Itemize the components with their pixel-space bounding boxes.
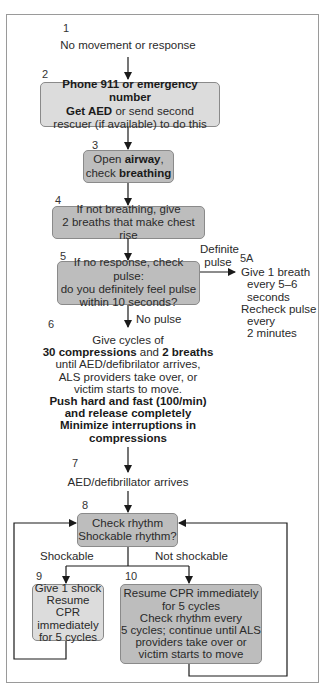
step-6-line5: victim starts to move. — [28, 383, 228, 395]
step-10-number: 10 — [125, 570, 137, 582]
step-3-check: check — [86, 167, 119, 179]
step-5-box: If no response, check pulse: do you defi… — [57, 261, 200, 305]
step-5a-text: Give 1 breath every 5–6 seconds Recheck … — [241, 266, 321, 340]
step-3-comma: , — [160, 153, 163, 165]
step-2-box: Phone 911 or emergency number Get AED or… — [40, 82, 220, 127]
step-5a-line4: Recheck pulse — [241, 303, 321, 315]
step-8-number: 8 — [82, 499, 88, 511]
step-3-breathing: breathing — [119, 167, 171, 179]
step-5-line3: within 10 seconds? — [80, 296, 178, 309]
step-1-text: No movement or response — [40, 39, 216, 52]
step-1-number: 1 — [63, 22, 69, 34]
step-4-line1: If not breathing, give — [76, 203, 180, 216]
step-10-line6: victim starts to move — [139, 648, 244, 660]
step-3-box: Open airway, check breathing — [83, 150, 174, 183]
not-shockable-label: Not shockable — [155, 550, 228, 563]
step-9-line4: for 5 cycles — [39, 631, 97, 643]
step-6-compressions: 30 compressions — [43, 346, 137, 358]
step-9-line1: Give 1 shock — [35, 582, 101, 594]
step-6-breaths: 2 breaths — [162, 346, 213, 358]
step-8-line1: Check rhythm — [92, 517, 163, 530]
step-7-text: AED/defibrillator arrives — [40, 476, 216, 489]
step-6-number: 6 — [48, 318, 54, 330]
step-5-line1: If no response, check pulse: — [58, 256, 199, 283]
step-2-line2-rest: or send second — [112, 105, 194, 117]
step-6-line9: compressions — [89, 432, 167, 444]
step-5a-line1: Give 1 breath — [241, 266, 321, 278]
step-4-line2: 2 breaths that make chest rise — [53, 216, 204, 243]
step-3-airway: airway — [125, 153, 161, 165]
step-8-box: Check rhythm Shockable rhythm? — [77, 513, 178, 547]
step-9-line2: Resume CPR — [33, 594, 103, 618]
step-5a-line6: 2 minutes — [241, 327, 321, 339]
step-6-and: and — [137, 346, 163, 358]
step-6-line1: Give cycles of — [28, 334, 228, 346]
step-2-line3: rescuer (if available) to do this — [53, 118, 206, 131]
step-2-line1: Phone 911 or emergency number — [62, 78, 198, 103]
step-6-line6: Push hard and fast (100/min) — [49, 395, 206, 407]
step-7-number: 7 — [72, 457, 78, 469]
step-6-text: Give cycles of 30 compressions and 2 bre… — [28, 334, 228, 444]
pulse-label: pulse — [200, 256, 236, 269]
step-6-line3: until AED/defibrilator arrives, — [28, 358, 228, 370]
step-4-box: If not breathing, give 2 breaths that ma… — [52, 206, 205, 239]
shockable-label: Shockable — [40, 550, 94, 563]
step-10-line1: Resume CPR immediately — [124, 587, 259, 599]
step-4-number: 4 — [55, 194, 61, 206]
no-pulse-label: No pulse — [136, 313, 181, 326]
step-9-number: 9 — [36, 570, 42, 582]
step-10-box: Resume CPR immediately for 5 cycles Chec… — [120, 584, 262, 664]
step-6-line4: ALS providers take over, or — [28, 371, 228, 383]
step-5a-line5: every — [241, 315, 321, 327]
step-9-line3: immediately — [37, 619, 98, 631]
definite-label: Definite — [200, 243, 236, 256]
step-2-get-aed: Get AED — [66, 105, 112, 117]
step-5-line2: do you definitely feel pulse — [61, 283, 197, 296]
step-5a-line2: every 5–6 — [241, 278, 321, 290]
step-5a-line3: seconds — [241, 291, 321, 303]
step-6-line8: Minimize interruptions in — [60, 419, 196, 431]
step-10-line4: 5 cycles; continue until ALS — [121, 624, 261, 636]
step-8-line2: Shockable rhythm? — [78, 530, 176, 543]
step-10-line2: for 5 cycles — [162, 600, 220, 612]
step-10-line5: providers take over or — [135, 636, 246, 648]
step-9-box: Give 1 shock Resume CPR immediately for … — [32, 584, 104, 641]
definite-pulse-label: Definite pulse — [200, 243, 236, 269]
step-5a-number: 5A — [240, 252, 253, 264]
step-3-open: Open — [93, 153, 124, 165]
step-6-line7: and release completely — [65, 407, 192, 419]
step-10-line3: Check rhythm every — [140, 612, 242, 624]
